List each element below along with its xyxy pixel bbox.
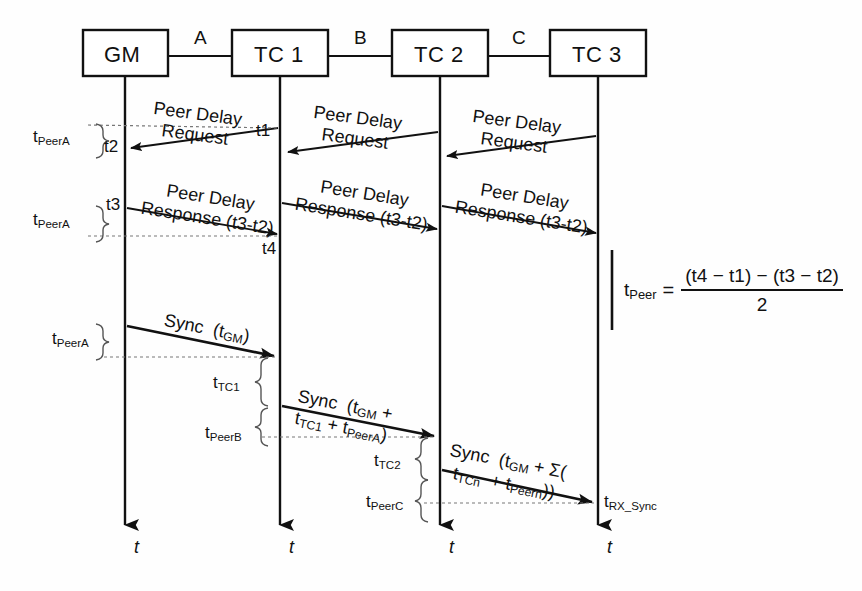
- timestamp-t4: t4: [262, 240, 276, 257]
- peer-delay-equation: tPeer = (t4 − t1) − (t3 − t2) 2: [624, 265, 843, 316]
- time-axis-label-tc2: t: [449, 538, 454, 556]
- brace-sub: TC1: [218, 381, 240, 393]
- node-label-tc3: TC 3: [572, 44, 622, 66]
- time-axis-label-tc1: t: [289, 538, 294, 556]
- brace-peerB: [255, 408, 268, 446]
- equation-numerator: (t4 − t1) − (t3 − t2): [681, 265, 843, 289]
- brace-sub: PeerA: [38, 135, 70, 147]
- brace-peerC: [415, 480, 428, 522]
- brace-peerA-3: [96, 324, 109, 360]
- time-axis-label-gm: t: [134, 538, 139, 556]
- brace-label-peerC: tPeerC: [366, 493, 403, 512]
- equation-fraction: (t4 − t1) − (t3 − t2) 2: [681, 265, 843, 316]
- node-label-tc2: TC 2: [414, 44, 464, 66]
- rx-sync-label: tRX_Sync: [604, 493, 657, 512]
- equation-lhs-sub: Peer: [629, 287, 656, 302]
- timestamp-t2: t2: [104, 138, 118, 155]
- brace-sub: TC2: [379, 459, 401, 471]
- link-label-a: A: [194, 28, 207, 47]
- node-label-gm: GM: [104, 44, 140, 66]
- brace-label-tc1-residence: tTC1: [213, 374, 240, 393]
- timestamp-t1: t1: [256, 122, 270, 139]
- equation-equals-sign: =: [663, 279, 675, 302]
- brace-label-peerA-1: tPeerA: [33, 128, 70, 147]
- time-axis-label-tc3: t: [607, 538, 612, 556]
- brace-label-peerB: tPeerB: [205, 424, 242, 443]
- brace-sub: PeerB: [210, 431, 242, 443]
- brace-tc2-residence: [415, 438, 428, 480]
- rx-sync-sub: RX_Sync: [609, 500, 657, 512]
- node-label-tc1: TC 1: [254, 44, 304, 66]
- brace-label-peerA-3: tPeerA: [52, 330, 89, 349]
- brace-tc1-residence: [255, 358, 268, 406]
- brace-label-tc2-residence: tTC2: [374, 452, 401, 471]
- link-label-c: C: [512, 28, 526, 47]
- brace-sub: PeerA: [38, 218, 70, 230]
- link-label-b: B: [354, 28, 367, 47]
- brace-sub: PeerA: [57, 337, 89, 349]
- timestamp-t3: t3: [106, 196, 120, 213]
- equation-lhs: tPeer: [624, 279, 657, 302]
- brace-sub: PeerC: [371, 500, 404, 512]
- diagram-canvas: GM TC 1 TC 2 TC 3 A B C Peer Delay Reque…: [0, 0, 862, 591]
- brace-label-peerA-2: tPeerA: [33, 211, 70, 230]
- equation-denominator: 2: [757, 291, 768, 316]
